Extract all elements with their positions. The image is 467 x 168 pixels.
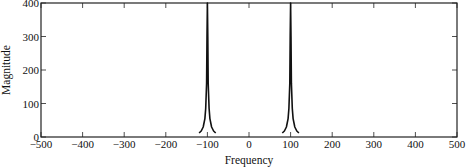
x-axis-ticks: −500−400−300−200−1000100200300400500 xyxy=(30,3,466,150)
x-tick-label: −100 xyxy=(196,138,219,150)
data-series xyxy=(166,3,332,137)
y-tick-label: 200 xyxy=(23,64,40,76)
x-tick-label: −200 xyxy=(154,138,177,150)
plot-area-border xyxy=(41,3,457,137)
x-tick-label: 400 xyxy=(407,138,424,150)
x-tick-label: −400 xyxy=(71,138,94,150)
x-tick-label: 300 xyxy=(366,138,383,150)
plot-frame xyxy=(41,3,457,137)
x-tick-label: 100 xyxy=(282,138,299,150)
spectrum-line xyxy=(199,3,216,133)
y-tick-label: 0 xyxy=(34,131,40,143)
y-tick-label: 300 xyxy=(23,31,40,43)
x-tick-label: 0 xyxy=(246,138,252,150)
spectrum-line xyxy=(282,3,299,133)
y-axis-title: Magnitude xyxy=(0,45,13,95)
chart: −500−400−300−200−1000100200300400500 010… xyxy=(0,0,467,168)
x-tick-label: −300 xyxy=(113,138,136,150)
y-axis-ticks: 0100200300400 xyxy=(23,0,458,143)
x-tick-label: 500 xyxy=(449,138,466,150)
x-axis-title: Frequency xyxy=(225,154,274,167)
y-tick-label: 100 xyxy=(23,98,40,110)
x-tick-label: 200 xyxy=(324,138,341,150)
y-tick-label: 400 xyxy=(23,0,40,9)
